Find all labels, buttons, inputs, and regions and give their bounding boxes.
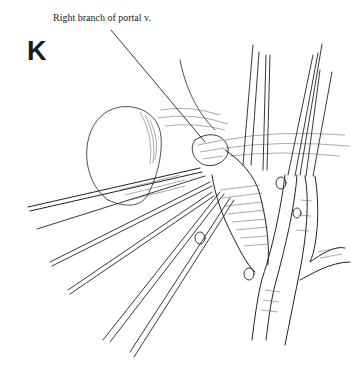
- gallbladder-shape: [87, 107, 162, 206]
- surgical-illustration: [0, 0, 364, 379]
- clip-1: [276, 177, 286, 189]
- forceps-instruments: [28, 168, 234, 357]
- liver-edge: [158, 60, 350, 156]
- clip-2: [293, 208, 301, 218]
- retractor-left-group: [243, 45, 270, 170]
- hepatic-artery-and-duct: [252, 175, 350, 345]
- clip-4: [244, 268, 254, 280]
- portal-vein-trunk: [212, 150, 268, 272]
- clamp-head: [192, 135, 228, 166]
- retractor-right-group: [288, 44, 332, 176]
